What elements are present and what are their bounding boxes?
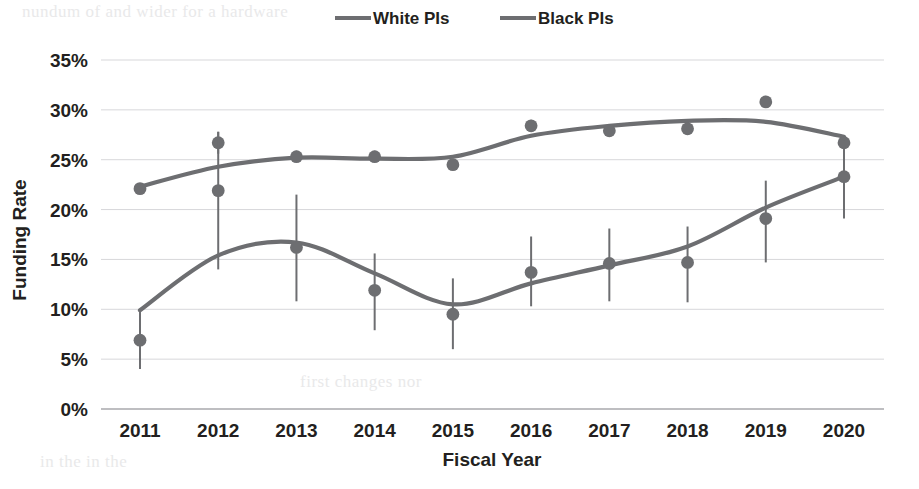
data-point[interactable]: [838, 170, 851, 183]
series-group: [134, 95, 851, 369]
x-tick-label: 2015: [432, 420, 475, 441]
trend-line: [140, 177, 844, 311]
y-tick-label: 15%: [50, 249, 88, 270]
y-tick-label: 0%: [61, 399, 89, 420]
chart-svg: 0%5%10%15%20%25%30%35% 20112012201320142…: [0, 0, 919, 489]
data-point[interactable]: [368, 150, 381, 163]
data-point[interactable]: [446, 308, 459, 321]
data-point[interactable]: [290, 241, 303, 254]
data-point[interactable]: [759, 212, 772, 225]
x-tick-label: 2011: [119, 420, 161, 441]
x-tick-label: 2014: [354, 420, 397, 441]
trend-line: [140, 120, 844, 187]
series-black-pis: [134, 132, 851, 369]
y-axis-title: Funding Rate: [9, 179, 30, 300]
data-point[interactable]: [603, 257, 616, 270]
data-point[interactable]: [134, 334, 147, 347]
data-point[interactable]: [603, 124, 616, 137]
legend-label-1[interactable]: White PIs: [373, 9, 450, 28]
data-point[interactable]: [134, 182, 147, 195]
legend-group: White PIsBlack PIs: [335, 9, 614, 28]
data-point[interactable]: [290, 150, 303, 163]
x-tick-label: 2019: [745, 420, 787, 441]
legend-label-2[interactable]: Black PIs: [538, 9, 614, 28]
x-tick-label: 2012: [197, 420, 239, 441]
data-point[interactable]: [759, 95, 772, 108]
y-tick-label: 10%: [50, 299, 88, 320]
data-point[interactable]: [525, 266, 538, 279]
x-axis-title: Fiscal Year: [443, 449, 543, 470]
x-tick-label: 2018: [666, 420, 708, 441]
y-tick-label: 30%: [50, 100, 88, 121]
data-point[interactable]: [525, 119, 538, 132]
y-tick-label: 35%: [50, 50, 88, 71]
x-tick-label: 2017: [588, 420, 630, 441]
y-tick-label: 20%: [50, 200, 88, 221]
data-point[interactable]: [681, 256, 694, 269]
x-tick-labels-group: 2011201220132014201520162017201820192020: [119, 420, 865, 441]
data-point[interactable]: [681, 122, 694, 135]
data-point[interactable]: [446, 158, 459, 171]
data-point[interactable]: [212, 184, 225, 197]
x-tick-label: 2016: [510, 420, 552, 441]
y-tick-labels-group: 0%5%10%15%20%25%30%35%: [50, 50, 88, 420]
x-tick-label: 2013: [275, 420, 317, 441]
funding-rate-line-chart: 0%5%10%15%20%25%30%35% 20112012201320142…: [0, 0, 919, 489]
y-tick-label: 5%: [61, 349, 89, 370]
x-tick-label: 2020: [823, 420, 865, 441]
series-white-pis: [134, 95, 851, 195]
data-point[interactable]: [368, 284, 381, 297]
y-tick-label: 25%: [50, 150, 88, 171]
